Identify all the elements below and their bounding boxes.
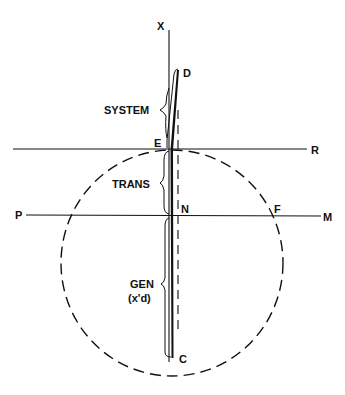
- label-c: C: [179, 353, 187, 365]
- label-gen-xd: (x'd): [128, 292, 151, 304]
- label-p: P: [15, 209, 22, 221]
- label-trans: TRANS: [112, 178, 150, 190]
- label-e: E: [154, 137, 161, 149]
- trans-brace: [160, 151, 169, 214]
- label-m: M: [323, 211, 332, 223]
- label-d: D: [183, 67, 191, 79]
- label-system: SYSTEM: [104, 104, 149, 116]
- line-p-m: [26, 215, 321, 216]
- label-n: N: [181, 203, 189, 215]
- label-r: R: [311, 144, 319, 156]
- impedance-diagram: X D SYSTEM E R TRANS N F P M GEN (x'd) C: [0, 0, 345, 395]
- label-f: F: [274, 203, 281, 215]
- label-x: X: [157, 20, 165, 32]
- label-gen: GEN: [130, 278, 154, 290]
